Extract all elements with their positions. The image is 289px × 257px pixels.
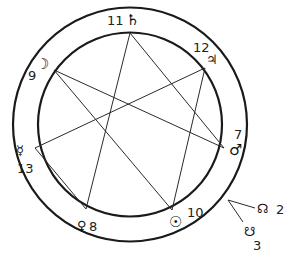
north-node-number: 2 [276, 202, 284, 217]
planet-moon: ☽ 9 [28, 55, 49, 83]
saturn-icon: ♄ [126, 11, 139, 29]
south-node-icon: ☋ [244, 224, 256, 239]
mercury-icon: ☿ [16, 143, 24, 158]
jupiter-icon: ♃ [206, 52, 218, 67]
north-node-icon: ☊ [257, 201, 269, 216]
saturn-number: 11 [107, 13, 124, 28]
lunar-nodes: ☊ 2 ☋ 3 [228, 200, 284, 253]
outer-ring [13, 8, 247, 242]
mars-number: 7 [234, 127, 242, 142]
inner-ring [38, 33, 222, 217]
planet-saturn: 11 ♄ [107, 11, 139, 29]
sun-number: 10 [187, 205, 204, 220]
planet-venus: ♀ 8 [77, 218, 97, 234]
sun-icon: ☉ [169, 213, 182, 231]
mars-icon: ♂ [229, 141, 242, 159]
moon-icon: ☽ [36, 55, 49, 73]
heptagram-diagram: 11 ♄ 12 ♃ 7 ♂ ☉ 10 ♀ 8 ☿ 13 ☽ 9 ☊ 2 ☋ 3 [0, 0, 289, 257]
planet-mars: 7 ♂ [229, 127, 242, 159]
moon-number: 9 [28, 68, 36, 83]
venus-icon: ♀ [77, 218, 87, 233]
venus-number: 8 [89, 219, 97, 234]
south-node-number: 3 [253, 238, 261, 253]
mercury-number: 13 [17, 161, 34, 176]
